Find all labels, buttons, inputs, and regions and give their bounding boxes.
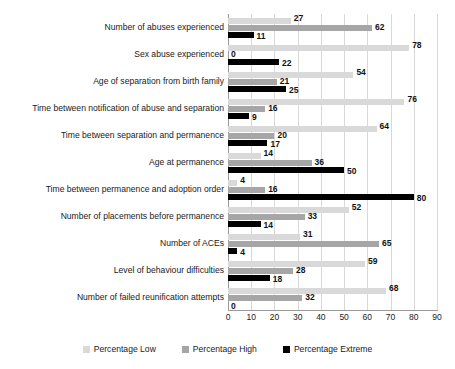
bar-value-label: 28 <box>296 266 305 274</box>
x-tick-label: 50 <box>339 312 348 322</box>
category-label: Time between notification of abuse and s… <box>0 103 224 113</box>
bar-value-label: 31 <box>303 230 312 238</box>
bar-extreme <box>228 167 344 173</box>
legend-item[interactable]: Percentage Extreme <box>283 344 372 354</box>
bar-group: 542125 <box>228 72 437 92</box>
bar-value-label: 16 <box>268 185 277 193</box>
bar-value-label: 59 <box>368 257 377 265</box>
x-tick-label: 40 <box>316 312 325 322</box>
bar-value-label: 18 <box>273 275 282 283</box>
x-tick-label: 0 <box>226 312 231 322</box>
bar-high <box>228 79 277 85</box>
bar-value-label: 36 <box>315 158 324 166</box>
bar-rows: 2762117802254212576169642017143650416805… <box>228 14 437 310</box>
bar-extreme <box>228 194 414 200</box>
bar-value-label: 65 <box>382 239 391 247</box>
bar-value-label: 22 <box>282 59 291 67</box>
legend-item[interactable]: Percentage High <box>182 344 257 354</box>
category-label: Time between separation and permanence <box>0 130 224 140</box>
bar-low <box>228 234 300 240</box>
x-tick-label: 90 <box>432 312 441 322</box>
chart-legend: Percentage LowPercentage HighPercentage … <box>0 344 455 354</box>
bar-group: 143650 <box>228 153 437 173</box>
bar-low <box>228 18 291 24</box>
bar-high <box>228 187 265 193</box>
x-axis-ticks: 0102030405060708090 <box>228 312 438 326</box>
bar-value-label: 9 <box>252 113 257 121</box>
bar-extreme <box>228 113 249 119</box>
bar-low <box>228 45 409 51</box>
bar-group: 276211 <box>228 18 437 38</box>
x-tick-label: 10 <box>246 312 255 322</box>
bar-low <box>228 126 377 132</box>
x-tick-label: 30 <box>293 312 302 322</box>
category-label: Number of ACEs <box>0 238 224 248</box>
legend-swatch-icon <box>83 346 90 353</box>
bar-value-label: 54 <box>356 68 365 76</box>
bar-value-label: 20 <box>277 131 286 139</box>
category-axis-labels: Number of abuses experiencedSex abuse ex… <box>0 14 228 310</box>
bar-high <box>228 160 312 166</box>
category-label: Number of failed reunification attempts <box>0 292 224 302</box>
bar-low <box>228 207 349 213</box>
category-label: Number of abuses experienced <box>0 22 224 32</box>
bar-group: 642017 <box>228 126 437 146</box>
bar-value-label: 78 <box>412 41 421 49</box>
bar-value-label: 14 <box>264 149 273 157</box>
legend-label: Percentage High <box>193 344 257 354</box>
bar-low <box>228 153 261 159</box>
bar-value-label: 21 <box>280 77 289 85</box>
bar-value-label: 62 <box>375 23 384 31</box>
category-label: Age of separation from birth family <box>0 76 224 86</box>
legend-swatch-icon <box>182 346 189 353</box>
bar-extreme <box>228 275 270 281</box>
bar-value-label: 33 <box>308 212 317 220</box>
bar-group: 41680 <box>228 180 437 200</box>
bar-value-label: 17 <box>270 140 279 148</box>
bar-value-label: 52 <box>352 203 361 211</box>
category-label: Level of behaviour difficulties <box>0 265 224 275</box>
bar-high <box>228 214 305 220</box>
bar-high <box>228 295 302 301</box>
bar-group: 68320 <box>228 288 437 308</box>
category-label: Sex abuse experienced <box>0 49 224 59</box>
bar-value-label: 4 <box>240 248 245 256</box>
bar-high <box>228 25 372 31</box>
bar-group: 78022 <box>228 45 437 65</box>
bar-value-label: 50 <box>347 167 356 175</box>
bar-value-label: 32 <box>305 293 314 301</box>
x-tick-label: 60 <box>363 312 372 322</box>
legend-label: Percentage Low <box>94 344 156 354</box>
bar-value-label: 0 <box>231 302 236 310</box>
bar-group: 31654 <box>228 234 437 254</box>
bar-group: 76169 <box>228 99 437 119</box>
bar-extreme <box>228 32 254 38</box>
bar-value-label: 11 <box>257 32 266 40</box>
bar-value-label: 27 <box>294 14 303 22</box>
bar-group: 523314 <box>228 207 437 227</box>
x-tick-label: 20 <box>270 312 279 322</box>
bar-low <box>228 99 404 105</box>
bar-low <box>228 72 353 78</box>
bar-value-label: 68 <box>389 284 398 292</box>
bar-value-label: 25 <box>289 86 298 94</box>
category-label: Age at permanence <box>0 157 224 167</box>
bar-chart: Number of abuses experiencedSex abuse ex… <box>0 0 455 369</box>
bar-extreme <box>228 86 286 92</box>
legend-swatch-icon <box>283 346 290 353</box>
bar-value-label: 0 <box>231 50 236 58</box>
gridline-90 <box>437 14 438 310</box>
plot-area: 2762117802254212576169642017143650416805… <box>228 14 437 310</box>
x-tick-label: 70 <box>386 312 395 322</box>
bar-extreme <box>228 248 237 254</box>
bar-value-label: 64 <box>380 122 389 130</box>
x-axis-line <box>228 310 438 311</box>
bar-low <box>228 180 237 186</box>
bar-value-label: 16 <box>268 104 277 112</box>
bar-value-label: 76 <box>407 95 416 103</box>
bar-high <box>228 106 265 112</box>
bar-extreme <box>228 221 261 227</box>
legend-item[interactable]: Percentage Low <box>83 344 156 354</box>
category-label: Time between permanence and adoption ord… <box>0 184 224 194</box>
bar-high <box>228 133 274 139</box>
